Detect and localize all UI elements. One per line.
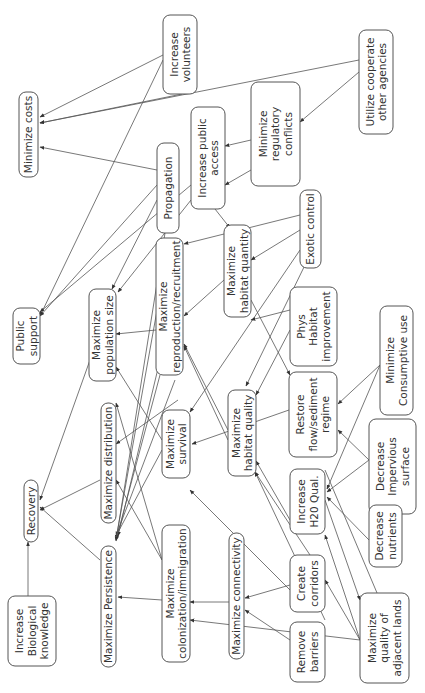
edge-arrow (40, 507, 100, 560)
node-layer: Minimize costsIncreasevolunteersUtilize … (8, 15, 416, 683)
node-label-line: regulatory (269, 107, 281, 161)
node-label-line: Decrease (373, 511, 385, 560)
node-label-line: barriers (308, 632, 320, 673)
node-label-line: nutrients (386, 512, 398, 559)
edge-arrow (245, 610, 290, 640)
edge-arrow (190, 620, 360, 640)
node-label: Recovery (25, 487, 37, 536)
node-recovery: Recovery (24, 480, 38, 542)
node-create-corridors: Createcorridors (290, 555, 325, 612)
node-min-consumptive: MinimizeConsumptive use (380, 306, 413, 415)
node-label: Removebarriers (295, 631, 320, 674)
node-inc-bio: IncreaseBiologicalknowledge (8, 596, 56, 666)
edge-arrow (245, 585, 290, 598)
edge-arrow (256, 461, 290, 520)
node-label-line: habitat quantity (238, 229, 250, 313)
node-label-line: population size (103, 295, 115, 375)
node-max-persistence: Maximize Persistence (101, 546, 116, 667)
node-max-hab-quantity: Maximizehabitat quantity (224, 225, 251, 317)
node-max-colonization: Maximizecolonization/immigration (162, 525, 190, 662)
node-dec-impervious: DecreaseImpervioussurface (369, 419, 416, 514)
node-label-line: Habitat (307, 307, 319, 346)
node-label-line: Minimize (384, 337, 396, 384)
node-label-line: Exotic control (304, 193, 316, 265)
node-dec-nutrients: Decreasenutrients (369, 505, 402, 567)
edge-arrow (184, 346, 228, 440)
node-label-line: Consumptive use (397, 315, 409, 406)
edge-arrow (116, 330, 156, 334)
influence-diagram: Minimize costsIncreasevolunteersUtilize … (0, 0, 425, 693)
node-label-line: colonization/immigration (176, 528, 188, 659)
node-utilize-coop: Utilize cooperateother agencies (359, 30, 393, 134)
node-label-line: access (208, 140, 220, 175)
node-label-line: conflicts (282, 112, 294, 156)
node-label-line: Maximize (90, 310, 102, 360)
node-restore-flow: Restoreflow/sedimentregime (289, 372, 337, 457)
node-public-support: Publicsupport (13, 308, 40, 364)
node-max-survival: Maximizesurvival (162, 410, 190, 478)
node-label-line: Maximize (164, 569, 176, 619)
node-label-line: quality of (378, 613, 390, 663)
node-label-line: Maximize connectivity (230, 537, 242, 654)
node-label-line: corridors (308, 560, 320, 606)
node-label: Maximize connectivity (230, 537, 242, 654)
node-label: Maximizesurvival (164, 419, 189, 469)
node-inc-volunteers: Increasevolunteers (163, 15, 197, 94)
node-label-line: Decrease (374, 442, 386, 491)
node-label: Minimizeregulatoryconflicts (257, 107, 294, 161)
node-label-line: improvement (320, 291, 332, 361)
edge-arrow (116, 403, 162, 560)
node-label-line: Maximize (225, 246, 237, 296)
node-max-hab-quality: Maximizehabitat quality (228, 390, 256, 476)
node-max-repro: Maximizereproduction/recruitment (156, 238, 183, 375)
edge-arrow (40, 60, 163, 316)
node-label-line: Utilize cooperate (364, 38, 376, 127)
node-label: Createcorridors (295, 560, 320, 606)
edge-arrow (327, 460, 369, 492)
edge-arrow (225, 140, 251, 146)
node-label-line: Minimize costs (22, 96, 34, 173)
node-label-line: surface (399, 447, 411, 486)
edge-arrow (338, 365, 380, 404)
edge-arrow (116, 375, 160, 540)
edge-arrow (40, 360, 90, 500)
edge-arrow (112, 200, 157, 289)
node-label-line: other agencies (376, 43, 388, 121)
node-label-line: support (27, 316, 39, 356)
edge-arrow (300, 72, 359, 122)
node-label-line: knowledge (38, 603, 50, 660)
edge-arrow (116, 480, 162, 560)
node-label: Minimize costs (22, 96, 34, 173)
node-label: IncreaseBiologicalknowledge (13, 603, 50, 660)
node-label-line: reproduction/recruitment (170, 240, 182, 372)
node-label-line: Maximize (230, 408, 242, 458)
edge-arrow (256, 330, 290, 395)
edge-arrow (251, 230, 300, 260)
node-label: Maximize Persistence (102, 550, 114, 663)
edge-arrow (116, 367, 162, 440)
node-min-reg: Minimizeregulatoryconflicts (251, 82, 300, 186)
node-min-costs: Minimize costs (19, 92, 38, 177)
node-label-line: Phys (295, 314, 307, 339)
node-label: IncreaseH20 Qual. (295, 475, 320, 527)
node-label-line: Increase (168, 32, 180, 76)
edge-arrow (327, 497, 369, 540)
node-label-line: Increase (295, 479, 307, 523)
node-label: Propagation (162, 157, 174, 220)
node-max-pop: Maximizepopulation size (89, 289, 116, 381)
node-label: Exotic control (304, 193, 316, 265)
edge-arrow (116, 450, 162, 536)
node-label-line: adjacent lands (391, 600, 403, 677)
node-label: Decreasenutrients (373, 511, 398, 560)
node-label-line: Maximize (366, 613, 378, 663)
node-label: Utilize cooperateother agencies (364, 38, 389, 127)
node-phys-hab: PhysHabitatimprovement (290, 287, 337, 366)
node-label-line: Create (295, 566, 307, 601)
node-label-line: regime (319, 396, 331, 433)
edge-arrow (184, 280, 224, 316)
node-inc-public-access: Increase publicaccess (191, 107, 225, 209)
edge-arrow (215, 209, 230, 228)
edge-arrow (225, 170, 251, 185)
node-label-line: Increase public (196, 118, 208, 198)
edge-arrow (40, 147, 157, 170)
